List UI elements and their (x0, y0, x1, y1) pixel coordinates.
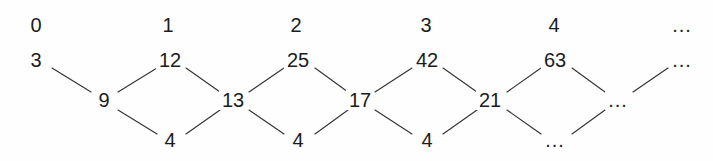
graph-edge (118, 68, 157, 92)
middle-node-13: 13 (219, 90, 247, 110)
graph-edge (633, 68, 668, 92)
graph-edge (375, 68, 412, 92)
upper-node-12: 12 (156, 50, 184, 70)
graph-edge (186, 68, 220, 92)
graph-edge (315, 68, 348, 92)
upper-node-25: 25 (284, 50, 312, 70)
graph-edge (52, 68, 91, 92)
graph-edge (443, 110, 477, 134)
lower-node-4: 4 (418, 130, 435, 150)
graph-edge (375, 110, 412, 134)
index-label-0: 0 (30, 15, 41, 35)
upper-node-3: 3 (27, 50, 44, 70)
upper-node-42: 42 (413, 50, 441, 70)
index-label-ellipsis: ... (672, 15, 692, 35)
lattice-diagram: 01234... 312254263... 9131721... 444... (0, 0, 713, 161)
graph-edge (572, 68, 605, 92)
graph-edge (443, 68, 477, 92)
middle-node-ellipsis: ... (605, 90, 631, 110)
middle-node-17: 17 (346, 90, 374, 110)
lower-node-ellipsis: ... (542, 130, 568, 150)
index-label-3: 3 (420, 15, 431, 35)
upper-node-63: 63 (541, 50, 569, 70)
graph-edge (118, 110, 157, 134)
edge-layer (0, 0, 713, 161)
lower-node-4: 4 (289, 130, 306, 150)
upper-node-ellipsis: ... (669, 50, 695, 70)
graph-edge (507, 110, 541, 134)
graph-edge (186, 110, 220, 134)
index-label-2: 2 (290, 15, 301, 35)
graph-edge (249, 110, 284, 134)
graph-edge (507, 68, 541, 92)
index-label-1: 1 (162, 15, 173, 35)
index-label-4: 4 (548, 15, 559, 35)
graph-edge (572, 110, 605, 134)
middle-node-21: 21 (476, 90, 504, 110)
graph-edge (315, 110, 348, 134)
lower-node-4: 4 (161, 130, 178, 150)
graph-edge (249, 68, 284, 92)
middle-node-9: 9 (95, 90, 112, 110)
